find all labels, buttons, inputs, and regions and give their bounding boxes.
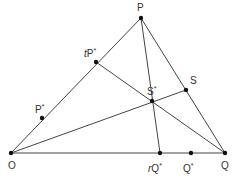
point-Q bbox=[223, 151, 227, 155]
label-Qstar: Q* bbox=[183, 161, 194, 174]
segment-tPstar-Q bbox=[96, 62, 225, 153]
point-S bbox=[184, 88, 188, 92]
label-tPstar: tP* bbox=[84, 46, 96, 59]
point-Pstar bbox=[40, 116, 44, 120]
label-P: P bbox=[137, 3, 144, 13]
point-Sstar bbox=[150, 99, 154, 103]
point-P bbox=[139, 16, 143, 20]
segment-O-S bbox=[11, 90, 186, 153]
label-O: O bbox=[8, 161, 16, 171]
point-rQstar bbox=[158, 151, 162, 155]
point-Qstar bbox=[189, 151, 193, 155]
point-O bbox=[9, 151, 13, 155]
label-Pstar: P* bbox=[35, 102, 44, 115]
label-Q: Q bbox=[221, 161, 229, 171]
label-Sstar: S* bbox=[147, 84, 156, 97]
label-S: S bbox=[190, 76, 197, 86]
segment-OP bbox=[11, 18, 141, 153]
point-tPstar bbox=[94, 60, 98, 64]
triangle-diagram bbox=[0, 0, 235, 179]
label-rQstar: rQ* bbox=[148, 161, 162, 174]
